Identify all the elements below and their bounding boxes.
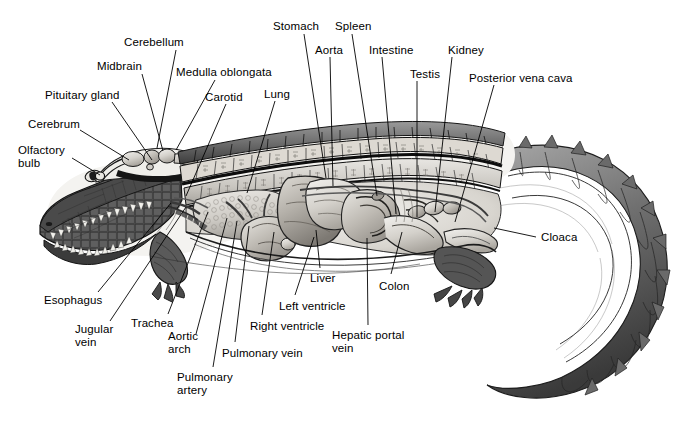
label-left-ventricle: Left ventricle [279, 300, 346, 313]
hindlimb [434, 247, 496, 308]
label-midbrain: Midbrain [97, 60, 142, 73]
label-jugular-vein: Jugular vein [75, 323, 113, 348]
label-aortic-arch: Aortic arch [168, 330, 198, 355]
label-medulla-oblongata: Medulla oblongata [176, 66, 272, 79]
label-aorta: Aorta [315, 44, 343, 57]
label-pulmonary-artery: Pulmonary artery [177, 371, 233, 396]
tail [487, 135, 670, 398]
cerebellum-shape [159, 149, 176, 163]
label-stomach: Stomach [273, 20, 319, 33]
pituitary-shape [147, 164, 154, 170]
label-spleen: Spleen [335, 20, 371, 33]
cerebrum-shape [122, 152, 144, 167]
label-esophagus: Esophagus [44, 294, 102, 307]
label-trachea: Trachea [131, 317, 173, 330]
anatomy-figure: CerebellumMidbrainMedulla oblongataPitui… [0, 0, 694, 422]
label-olfactory-bulb: Olfactory bulb [18, 144, 65, 169]
leader-midbrain [142, 74, 163, 151]
leader-cerebrum [80, 130, 129, 160]
label-pituitary-gland: Pituitary gland [45, 89, 119, 102]
label-lung: Lung [264, 88, 290, 101]
label-cerebellum: Cerebellum [124, 36, 184, 49]
label-cloaca: Cloaca [541, 231, 577, 244]
label-pulmonary-vein: Pulmonary vein [222, 347, 303, 360]
label-intestine: Intestine [369, 44, 413, 57]
leader-cerebellum [157, 50, 176, 148]
label-colon: Colon [379, 280, 410, 293]
label-liver: Liver [310, 272, 335, 285]
label-right-ventricle: Right ventricle [250, 320, 324, 333]
label-kidney: Kidney [448, 44, 484, 57]
leader-cloaca [494, 228, 536, 237]
label-hepatic-portal-vein: Hepatic portal vein [332, 329, 404, 354]
label-posterior-vena-cava: Posterior vena cava [469, 72, 573, 85]
label-testis: Testis [410, 68, 440, 81]
leader-hepatic-portal-vein [367, 238, 368, 325]
label-carotid: Carotid [205, 91, 243, 104]
label-cerebrum: Cerebrum [28, 118, 80, 131]
